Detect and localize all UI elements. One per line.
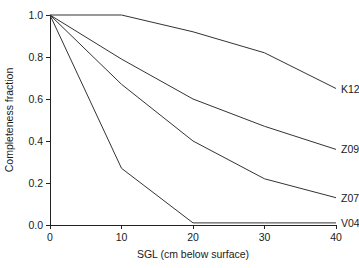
series-label-z07: Z07 [341,192,359,204]
x-tick-label: 40 [330,231,342,243]
series-lines [50,15,336,223]
x-tick-label: 30 [259,231,271,243]
chart-container: 0.00.20.40.60.81.0 010203040 K12Z09Z07V0… [0,0,359,268]
y-axis-ticks: 0.00.20.40.60.81.0 [28,9,50,231]
y-axis-label: Completeness fraction [3,68,15,173]
y-tick-label: 0.8 [28,51,43,63]
x-axis-label: SGL (cm below surface) [137,248,249,260]
x-tick-label: 10 [116,231,128,243]
y-tick-label: 0.0 [28,219,43,231]
series-line-z09 [50,15,336,149]
x-tick-label: 20 [187,231,199,243]
y-tick-label: 0.2 [28,177,43,189]
series-labels: K12Z09Z07V04 [341,83,359,229]
line-chart: 0.00.20.40.60.81.0 010203040 K12Z09Z07V0… [0,0,359,268]
x-axis-ticks: 010203040 [47,225,342,243]
y-tick-label: 0.4 [28,135,43,147]
y-tick-label: 1.0 [28,9,43,21]
series-line-v04 [50,15,336,223]
y-tick-label: 0.6 [28,93,43,105]
x-tick-label: 0 [47,231,53,243]
series-label-v04: V04 [341,217,359,229]
series-line-k12 [50,15,336,89]
series-label-k12: K12 [341,83,359,95]
series-label-z09: Z09 [341,143,359,155]
